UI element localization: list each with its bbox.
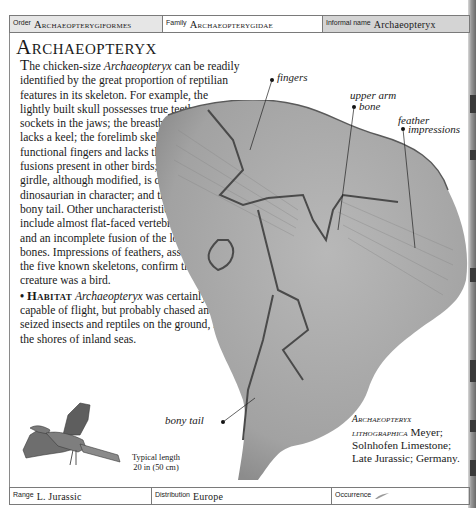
specimen-caption: Archaeopteryx lithographica Meyer; Solnh… [352, 412, 476, 464]
family-cell: Family Archaeopterygidae [163, 16, 323, 32]
occurrence-cell: Occurrence [332, 488, 469, 504]
classification-header: Order Archaeopterygiformes Family Archae… [9, 15, 470, 33]
occurrence-label: Occurrence [335, 491, 371, 498]
typical-length-label: Typical length [126, 453, 186, 463]
description-text: he chicken-size [29, 60, 104, 73]
upper-arm-bone-pointer [352, 105, 356, 109]
informal-name-value: Archaeopteryx [374, 19, 436, 30]
order-label: Order [13, 19, 31, 26]
family-label: Family [166, 19, 187, 26]
fingers-pointer [270, 78, 274, 82]
typical-length: Typical length 20 in (50 cm) [126, 453, 186, 473]
footer-info: Range L. Jurassic Distribution Europe Oc… [9, 487, 470, 505]
range-cell: Range L. Jurassic [10, 488, 152, 504]
caption-species: lithographica [352, 428, 408, 438]
feather-icon [374, 492, 390, 500]
bullet: • [20, 290, 24, 303]
label-feather-impressions-2: impressions [408, 123, 460, 135]
bird-illustration [18, 400, 128, 475]
distribution-cell: Distribution Europe [152, 488, 332, 504]
caption-genus: Archaeopteryx [352, 414, 411, 424]
order-cell: Order Archaeopterygiformes [10, 16, 163, 32]
dropcap: T [20, 57, 29, 73]
caption-author: Meyer; [408, 426, 443, 438]
bony-tail-pointer [221, 420, 225, 424]
caption-locality: Solnhofen Limestone; [352, 439, 451, 451]
feather-impressions-pointer [401, 127, 405, 131]
order-value: Archaeopterygiformes [34, 19, 132, 30]
distribution-label: Distribution [155, 491, 190, 498]
distribution-value: Europe [193, 491, 223, 502]
label-fingers: fingers [277, 71, 308, 83]
label-upper-arm-bone-2: bone [359, 100, 380, 112]
habitat-heading: Habitat [27, 289, 72, 303]
species-name: Archaeopteryx [75, 290, 143, 303]
informal-name-label: Informal name [326, 19, 371, 26]
caption-age: Late Jurassic; Germany. [352, 452, 460, 464]
range-label: Range [13, 491, 34, 498]
range-value: L. Jurassic [37, 491, 82, 502]
species-name: Archaeopteryx [104, 60, 172, 73]
typical-length-value: 20 in (50 cm) [126, 463, 186, 473]
page-title: Archaeopteryx [16, 35, 157, 60]
family-value: Archaeopterygidae [190, 19, 273, 30]
label-bony-tail: bony tail [165, 414, 204, 426]
informal-name-cell: Informal name Archaeopteryx [323, 16, 469, 32]
